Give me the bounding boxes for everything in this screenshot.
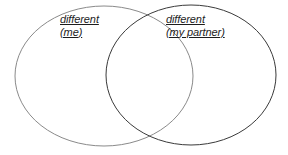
venn-label-left: different (me) [60, 13, 99, 38]
venn-label-left-line-1: different [60, 13, 99, 26]
venn-label-right-line-1: different [166, 13, 225, 26]
diagram-background [0, 0, 288, 155]
venn-diagram-graphic [0, 0, 288, 155]
venn-diagram-canvas: different (me) different (my partner) [0, 0, 288, 155]
venn-label-left-line-2: (me) [60, 26, 99, 39]
venn-label-right: different (my partner) [166, 13, 225, 38]
venn-label-right-line-2: (my partner) [166, 26, 225, 39]
